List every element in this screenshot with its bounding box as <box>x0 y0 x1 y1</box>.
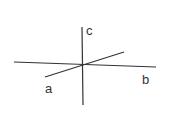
label-a: a <box>45 81 53 96</box>
line-c <box>82 27 83 105</box>
label-b: b <box>142 72 149 87</box>
line-diagram: c a b <box>0 0 175 121</box>
label-c: c <box>86 23 93 38</box>
line-a <box>45 52 124 77</box>
